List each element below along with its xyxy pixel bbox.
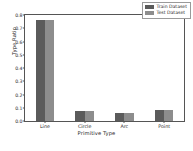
legend-label: Test Dataset: [157, 11, 186, 16]
y-tick-mark: [23, 94, 25, 95]
bar-line-train: [36, 20, 45, 121]
bar-point-train: [155, 110, 164, 121]
x-tick-mark: [164, 121, 165, 123]
y-tick-mark: [23, 68, 25, 69]
bar-circle-train: [75, 111, 84, 121]
x-tick-label: Point: [158, 124, 170, 129]
legend-label: Train Dataset: [157, 5, 187, 10]
x-axis-title: Primitive Type: [0, 130, 193, 136]
bar-chart-figure: 0.00.10.20.30.40.50.60.70.8 LineCircleAr…: [0, 0, 193, 151]
x-tick-mark: [84, 121, 85, 123]
y-tick-mark: [23, 28, 25, 29]
legend-swatch-icon: [145, 5, 154, 9]
x-tick-label: Line: [40, 124, 50, 129]
plot-area: 0.00.10.20.30.40.50.60.70.8 LineCircleAr…: [24, 14, 185, 122]
bar-line-test: [45, 20, 54, 121]
y-tick-mark: [23, 81, 25, 82]
x-tick-label: Arc: [120, 124, 128, 129]
y-tick-mark: [23, 107, 25, 108]
bar-arc-test: [124, 113, 133, 121]
x-tick-mark: [44, 121, 45, 123]
y-tick-mark: [23, 121, 25, 122]
bar-arc-train: [115, 113, 124, 121]
chart-legend: Train DatasetTest Dataset: [142, 2, 191, 19]
x-tick-mark: [124, 121, 125, 123]
bar-point-test: [164, 110, 173, 121]
legend-item: Train Dataset: [145, 5, 187, 10]
bar-circle-test: [85, 111, 94, 121]
legend-item: Test Dataset: [145, 11, 187, 16]
y-tick-mark: [23, 15, 25, 16]
x-tick-label: Circle: [78, 124, 91, 129]
y-tick-mark: [23, 41, 25, 42]
y-tick-mark: [23, 54, 25, 55]
legend-swatch-icon: [145, 11, 154, 15]
y-axis-title: Type Ratio: [11, 11, 17, 71]
